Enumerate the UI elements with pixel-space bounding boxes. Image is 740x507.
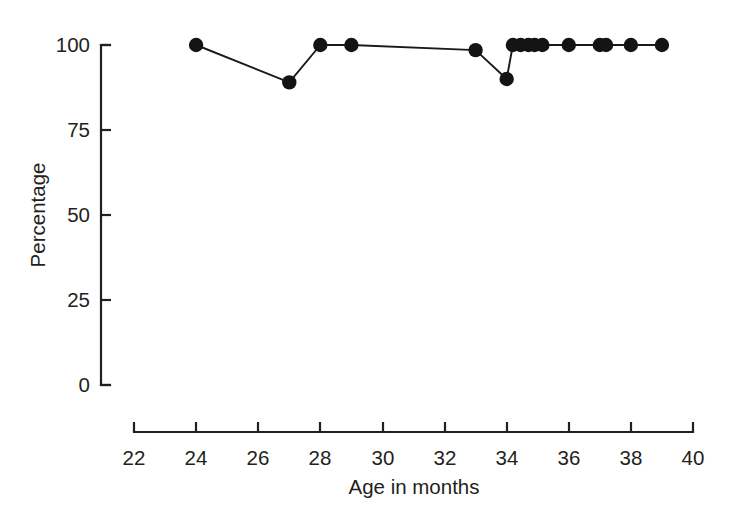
data-point bbox=[624, 38, 638, 52]
y-tick-label-50: 50 bbox=[67, 203, 90, 226]
x-tick-label-24: 24 bbox=[185, 446, 208, 469]
data-markers bbox=[189, 38, 669, 90]
x-tick-marks bbox=[134, 422, 693, 432]
data-point bbox=[344, 38, 358, 52]
x-tick-label-32: 32 bbox=[434, 446, 457, 469]
data-point bbox=[655, 38, 669, 52]
x-tick-label-28: 28 bbox=[309, 446, 332, 469]
line-chart: 100 75 50 25 0 Percentage 22 24 26 28 30… bbox=[0, 0, 740, 507]
x-tick-label-26: 26 bbox=[247, 446, 270, 469]
y-tick-marks bbox=[101, 45, 111, 385]
y-axis-title: Percentage bbox=[26, 163, 49, 268]
data-point bbox=[562, 38, 576, 52]
x-tick-label-38: 38 bbox=[620, 446, 643, 469]
x-tick-label-30: 30 bbox=[372, 446, 395, 469]
data-point bbox=[468, 43, 482, 57]
y-tick-label-0: 0 bbox=[79, 373, 90, 396]
data-point bbox=[499, 72, 513, 86]
data-point bbox=[313, 38, 327, 52]
data-point bbox=[189, 38, 203, 52]
data-line bbox=[196, 45, 662, 82]
y-tick-label-100: 100 bbox=[56, 33, 90, 56]
data-series-group bbox=[189, 38, 669, 90]
data-point bbox=[599, 38, 613, 52]
x-tick-label-36: 36 bbox=[558, 446, 581, 469]
data-point bbox=[282, 75, 296, 89]
data-point bbox=[535, 38, 549, 52]
chart-figure: 100 75 50 25 0 Percentage 22 24 26 28 30… bbox=[0, 0, 740, 507]
x-axis-title: Age in months bbox=[348, 475, 479, 498]
x-tick-label-22: 22 bbox=[123, 446, 146, 469]
y-tick-label-75: 75 bbox=[67, 118, 90, 141]
x-tick-label-40: 40 bbox=[682, 446, 705, 469]
x-tick-label-34: 34 bbox=[496, 446, 519, 469]
y-tick-label-25: 25 bbox=[67, 288, 90, 311]
